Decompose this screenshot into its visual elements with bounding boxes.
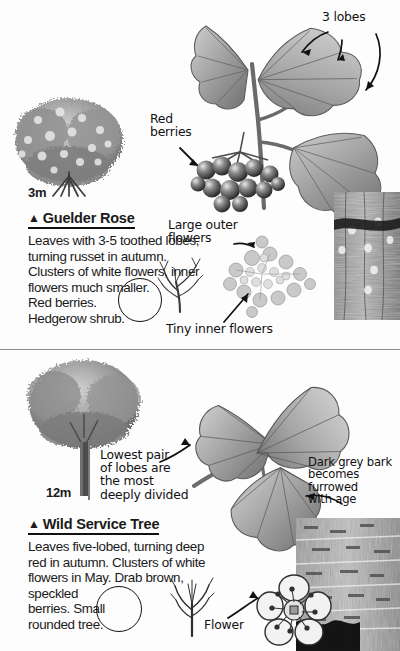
wild-service-flower-illustration — [256, 572, 332, 648]
guelder-rose-shrub-illustration — [8, 92, 130, 200]
annotation-tiny-inner-flowers: Tiny inner flowers — [166, 322, 273, 335]
section-divider — [0, 349, 400, 350]
height-label-guelder-rose: 3m — [28, 185, 46, 200]
triangle-marker-icon: ▲ — [28, 517, 40, 531]
guelder-rose-bark-illustration — [334, 192, 400, 320]
species-name-guelder-rose: Guelder Rose — [43, 210, 135, 226]
tiny-inner-flowers-arrow-icon — [222, 288, 256, 326]
height-scale-rule — [88, 440, 90, 500]
guelder-rose-winter-twig-illustration — [156, 256, 206, 314]
three-lobes-arrows-icon — [280, 22, 398, 104]
dark-grey-bark-arrow-icon — [300, 488, 344, 514]
height-label-wild-service-tree: 12m — [46, 485, 71, 500]
wild-service-leaf-spray-illustration — [178, 366, 358, 542]
species-name-wild-service-tree: Wild Service Tree — [43, 516, 160, 532]
triangle-marker-icon: ▲ — [28, 211, 40, 225]
species-heading-guelder-rose: ▲Guelder Rose — [28, 210, 135, 229]
species-heading-wild-service-tree: ▲Wild Service Tree — [28, 516, 159, 535]
guide-page: 3m ▲Guelder Rose Leaves with 3-5 toothed… — [0, 0, 400, 651]
guelder-rose-berry-cluster-illustration — [186, 130, 290, 212]
leaf-outline-circle-wild-service-tree — [96, 586, 142, 632]
